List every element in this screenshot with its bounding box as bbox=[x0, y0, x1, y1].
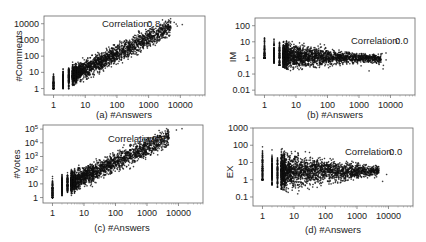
svg-text:1000: 1000 bbox=[347, 211, 367, 221]
correlation-value: 0.0 bbox=[395, 35, 408, 46]
svg-text:103: 103 bbox=[25, 151, 39, 161]
svg-text:10: 10 bbox=[291, 100, 301, 110]
correlation-label: Correlation: bbox=[345, 146, 394, 157]
svg-text:10: 10 bbox=[28, 179, 38, 189]
correlation-label: Correlation: bbox=[351, 35, 400, 46]
correlation-value: 0.9 bbox=[152, 133, 165, 144]
svg-text:10000: 10000 bbox=[166, 208, 191, 218]
x-axis-ticks: 110100100010000 bbox=[50, 203, 203, 218]
svg-text:10: 10 bbox=[29, 67, 39, 77]
panel-b-im-vs-answers: 110100100010000 0.010.1110100 Correlatio… bbox=[213, 0, 426, 121]
svg-text:10: 10 bbox=[238, 157, 248, 167]
svg-text:102: 102 bbox=[25, 165, 39, 175]
y-axis-label: #Comments bbox=[13, 30, 24, 81]
y-axis-ticks: 110102103104105 bbox=[25, 124, 43, 202]
svg-text:10000: 10000 bbox=[378, 100, 403, 110]
x-axis-label: (c) #Answers bbox=[94, 222, 150, 233]
scatter-plot-b: 110100100010000 0.010.1110100 Correlatio… bbox=[213, 0, 426, 121]
svg-text:104: 104 bbox=[25, 138, 39, 148]
svg-text:10000: 10000 bbox=[14, 19, 39, 29]
svg-text:100: 100 bbox=[233, 140, 248, 150]
x-axis-ticks: 110100100010000 bbox=[51, 95, 205, 110]
x-axis-label: (a) #Answers bbox=[96, 109, 152, 120]
svg-text:0.1: 0.1 bbox=[237, 69, 250, 79]
panel-c-votes-vs-answers: 110100100010000 110102103104105 Correlat… bbox=[0, 121, 213, 242]
scatter-plot-d: 110100100010000 0.11101001000 Correlatio… bbox=[213, 121, 426, 242]
svg-text:1000: 1000 bbox=[137, 208, 157, 218]
correlation-label: Correlation: bbox=[102, 18, 151, 29]
y-axis-ticks: 0.11101001000 bbox=[228, 123, 253, 202]
svg-text:1: 1 bbox=[51, 100, 56, 110]
y-axis-label: IM bbox=[227, 52, 238, 63]
svg-text:0.1: 0.1 bbox=[235, 192, 248, 202]
correlation-label: Correlation: bbox=[108, 133, 157, 144]
svg-text:100: 100 bbox=[318, 211, 333, 221]
x-axis-label: (d) #Answers bbox=[305, 224, 361, 235]
panel-a-comments-vs-answers: 110100100010000 110100100010000 Correlat… bbox=[0, 0, 213, 121]
svg-text:10: 10 bbox=[79, 208, 89, 218]
svg-text:1: 1 bbox=[34, 84, 39, 94]
x-axis-ticks: 110100100010000 bbox=[262, 95, 415, 110]
correlation-value: 0.0 bbox=[389, 146, 402, 157]
scatter-plot-a: 110100100010000 110100100010000 Correlat… bbox=[0, 0, 213, 121]
svg-text:100: 100 bbox=[235, 21, 250, 31]
svg-text:1: 1 bbox=[243, 175, 248, 185]
svg-text:1: 1 bbox=[245, 53, 250, 63]
svg-text:10000: 10000 bbox=[376, 211, 401, 221]
scatter-plot-c: 110100100010000 110102103104105 Correlat… bbox=[0, 121, 213, 242]
svg-text:105: 105 bbox=[25, 124, 39, 134]
svg-text:0.01: 0.01 bbox=[232, 85, 250, 95]
svg-text:1: 1 bbox=[33, 193, 38, 203]
svg-text:10: 10 bbox=[80, 100, 90, 110]
svg-text:100: 100 bbox=[108, 208, 123, 218]
svg-text:1: 1 bbox=[262, 100, 267, 110]
svg-text:1: 1 bbox=[260, 211, 265, 221]
y-axis-label: #Votes bbox=[11, 149, 22, 178]
svg-text:100: 100 bbox=[24, 51, 39, 61]
svg-text:10: 10 bbox=[240, 37, 250, 47]
x-axis-ticks: 110100100010000 bbox=[260, 206, 413, 221]
x-axis-label: (b) #Answers bbox=[307, 109, 363, 120]
svg-text:1: 1 bbox=[50, 208, 55, 218]
svg-text:10: 10 bbox=[289, 211, 299, 221]
svg-text:1000: 1000 bbox=[228, 123, 248, 133]
correlation-value: 0.8 bbox=[147, 18, 160, 29]
y-axis-label: EX bbox=[224, 165, 235, 178]
panel-d-ex-vs-answers: 110100100010000 0.11101001000 Correlatio… bbox=[213, 121, 426, 242]
svg-text:10000: 10000 bbox=[168, 100, 193, 110]
